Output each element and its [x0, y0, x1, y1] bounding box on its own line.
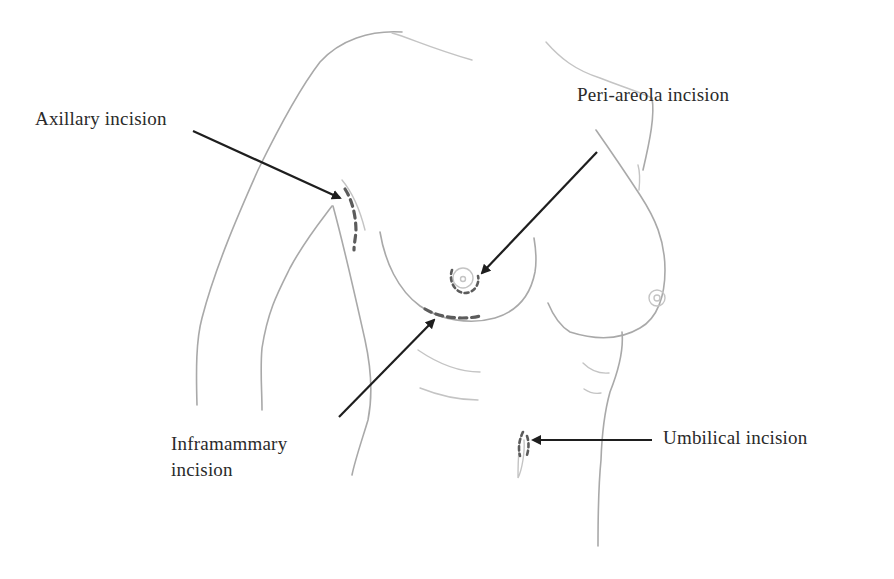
rib-line-right-2 — [584, 389, 601, 393]
inframammary-incision-label: Inframammary incision — [171, 431, 287, 483]
right-breast-outline — [548, 130, 665, 338]
rib-line-right-1 — [583, 363, 609, 373]
periareola-incision-label: Peri-areola incision — [577, 82, 729, 108]
inframammary-arrow — [339, 320, 434, 417]
outer-arm-outline — [197, 32, 402, 405]
rib-line-left-1 — [418, 350, 480, 372]
inframammary-label-line1: Inframammary — [171, 431, 287, 457]
rib-line-left-2 — [420, 388, 478, 400]
axillary-arrow — [193, 131, 340, 198]
incisions — [345, 189, 529, 456]
inner-arm-outline — [261, 206, 332, 410]
right-nipple-center — [654, 295, 660, 301]
right-nipple — [649, 290, 665, 306]
left-nipple — [461, 277, 466, 282]
periareola-arrow — [482, 152, 597, 273]
umbilical-incision-label: Umbilical incision — [663, 425, 808, 451]
left-breast-outline — [380, 232, 536, 321]
incision-diagram — [0, 0, 894, 579]
right-shoulder-line — [643, 98, 653, 170]
inframammary-label-line2: incision — [171, 457, 287, 483]
shoulder-top-line — [392, 33, 472, 60]
torso-side-line — [333, 206, 371, 475]
axillary-incision-label: Axillary incision — [35, 106, 167, 132]
right-shoulder-tick — [638, 165, 640, 190]
left-areola — [453, 268, 473, 288]
